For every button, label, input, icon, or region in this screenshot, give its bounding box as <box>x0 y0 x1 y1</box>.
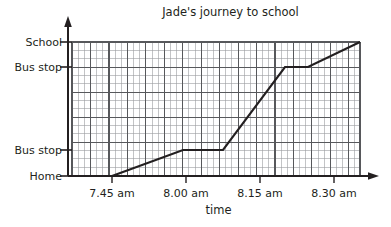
y-tick-label-bus-stop-2: Bus stop <box>0 61 62 74</box>
x-tick-label-2: 8.15 am <box>225 188 295 199</box>
x-axis-ticks <box>112 176 334 183</box>
x-tick-label-1: 8.00 am <box>151 188 221 199</box>
y-tick-label-bus-stop-2-text: Bus stop <box>14 61 62 74</box>
x-axis-title: time <box>0 205 391 217</box>
y-tick-label-bus-stop-1: Bus stop <box>0 144 62 157</box>
x-tick-label-3: 8.30 am <box>299 188 369 199</box>
x-axis-arrowhead <box>368 172 379 180</box>
y-tick-label-bus-stop-1-text: Bus stop <box>14 144 62 157</box>
y-tick-label-home: Home <box>0 170 62 183</box>
y-tick-label-school: School <box>0 36 62 49</box>
journey-graph-figure: Jade's journey to school School Bus stop… <box>0 0 391 227</box>
y-tick-label-home-text: Home <box>30 170 62 183</box>
y-tick-label-school-text: School <box>25 36 62 49</box>
x-tick-label-0: 7.45 am <box>77 188 147 199</box>
chart-title: Jade's journey to school <box>0 7 391 19</box>
